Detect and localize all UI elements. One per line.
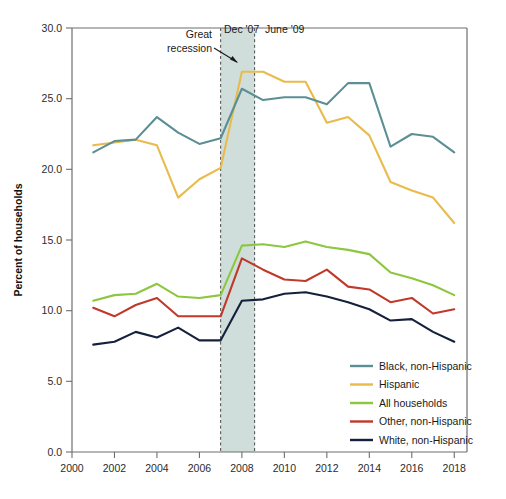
x-tick-label: 2014 <box>358 462 382 474</box>
y-tick-label: 30.0 <box>42 22 63 34</box>
y-tick-label: 20.0 <box>42 163 63 175</box>
x-tick-label: 2006 <box>188 462 212 474</box>
recession-end-label: June '09 <box>265 23 305 35</box>
x-tick-label: 2018 <box>443 462 467 474</box>
x-tick-label: 2002 <box>103 462 127 474</box>
legend-label: Black, non-Hispanic <box>379 360 472 372</box>
y-tick-label: 5.0 <box>47 375 62 387</box>
x-tick-label: 2008 <box>230 462 254 474</box>
recession-start-label: Dec '07 <box>224 23 259 35</box>
y-tick-label: 15.0 <box>42 234 63 246</box>
x-tick-label: 2016 <box>400 462 424 474</box>
great-recession-label-line1: Great <box>186 28 212 40</box>
x-tick-group: 2000200220042006200820102012201420162018 <box>60 452 466 474</box>
y-tick-label: 25.0 <box>42 92 63 104</box>
great-recession-label-line2: recession <box>167 42 212 54</box>
x-tick-label: 2010 <box>273 462 297 474</box>
legend-label: Hispanic <box>379 378 419 390</box>
y-tick-group: 0.0 5.0 10.0 15.0 20.0 25.0 30.0 <box>42 22 72 458</box>
y-tick-label: 0.0 <box>47 446 62 458</box>
legend-label: All households <box>379 397 447 409</box>
line-chart-svg: 0.0 5.0 10.0 15.0 20.0 25.0 30.0 2000200… <box>0 0 506 499</box>
y-tick-label: 10.0 <box>42 304 63 316</box>
legend-label: Other, non-Hispanic <box>379 415 472 427</box>
x-tick-label: 2004 <box>145 462 169 474</box>
y-axis-title: Percent of households <box>12 183 24 296</box>
x-tick-label: 2000 <box>60 462 84 474</box>
x-tick-label: 2012 <box>315 462 339 474</box>
legend-label: White, non-Hispanic <box>379 434 473 446</box>
chart-figure: 0.0 5.0 10.0 15.0 20.0 25.0 30.0 2000200… <box>0 0 506 499</box>
